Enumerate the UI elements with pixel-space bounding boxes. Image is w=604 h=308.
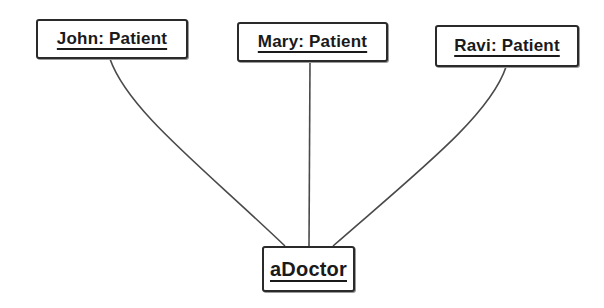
object-label: Mary: Patient bbox=[258, 32, 367, 52]
link-mary-doctor bbox=[309, 62, 310, 246]
object-ravi-patient[interactable]: Ravi: Patient bbox=[435, 25, 579, 67]
object-label: Ravi: Patient bbox=[454, 36, 560, 56]
object-diagram-canvas: John: Patient Mary: Patient Ravi: Patien… bbox=[0, 0, 604, 308]
link-ravi-doctor bbox=[333, 67, 506, 246]
object-label: aDoctor bbox=[270, 258, 347, 281]
object-john-patient[interactable]: John: Patient bbox=[36, 19, 188, 59]
object-label: John: Patient bbox=[57, 29, 167, 49]
object-a-doctor[interactable]: aDoctor bbox=[262, 246, 355, 292]
link-john-doctor bbox=[110, 59, 285, 246]
object-mary-patient[interactable]: Mary: Patient bbox=[237, 22, 388, 62]
